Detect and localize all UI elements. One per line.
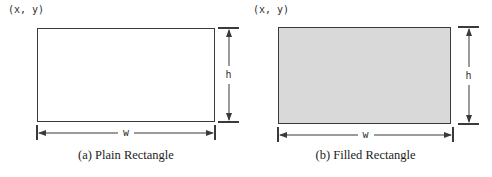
figure-a-width-dimension: w — [37, 125, 215, 140]
arrow-left-icon — [38, 130, 46, 136]
arrow-down-icon — [226, 113, 232, 121]
dimension-tick — [458, 123, 479, 125]
figure-a-origin-label: (x, y) — [8, 5, 44, 15]
figure-a-width-label: w — [118, 127, 134, 139]
dimension-tick — [214, 125, 216, 140]
figure-b-width-label: w — [357, 129, 373, 141]
arrow-left-icon — [279, 132, 287, 138]
figure-a-height-label: h — [224, 66, 232, 84]
figure-b-width-dimension: w — [278, 127, 453, 142]
figure-b-origin-label: (x, y) — [253, 5, 289, 15]
figure-b-caption: (b) Filled Rectangle — [278, 149, 453, 162]
figure-a-height-dimension: h — [218, 28, 239, 122]
arrow-down-icon — [466, 115, 472, 123]
figure-a-caption: (a) Plain Rectangle — [37, 149, 215, 162]
figure-b-height-label: h — [464, 67, 472, 85]
figure-b-rectangle — [278, 27, 451, 124]
figure-b-height-dimension: h — [458, 27, 479, 124]
arrow-up-icon — [466, 28, 472, 36]
arrow-up-icon — [226, 29, 232, 37]
figure-a-rectangle — [37, 28, 215, 122]
arrow-right-icon — [206, 130, 214, 136]
arrow-right-icon — [444, 132, 452, 138]
dimension-tick — [218, 121, 239, 123]
dimension-tick — [452, 127, 454, 142]
